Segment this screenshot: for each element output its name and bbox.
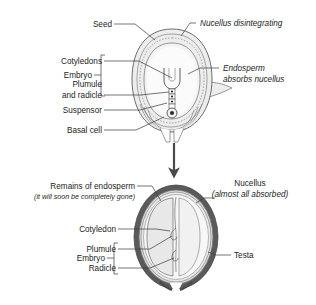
label-suspensor: Suspensor bbox=[63, 106, 102, 115]
label-nucellus-note: (almost all absorbed) bbox=[212, 190, 289, 199]
suspensor-dot-3 bbox=[171, 100, 173, 102]
developing-seed-graphic bbox=[94, 23, 232, 142]
label-remains-of-endosperm: Remains of endosperm bbox=[50, 182, 135, 191]
label-endosperm-line1: Endosperm bbox=[223, 64, 265, 73]
suspensor-dot-1 bbox=[171, 90, 173, 92]
micropyle-notch-right bbox=[174, 128, 184, 142]
label-endosperm-line2: absorbs nucellus bbox=[223, 75, 284, 84]
label-remains-note: (it will soon be completely gone) bbox=[34, 193, 135, 201]
label-radicle: Radicle bbox=[89, 264, 117, 273]
label-plumule: Plumule bbox=[86, 245, 116, 254]
micropyle-notch-left bbox=[160, 128, 170, 142]
label-seed: Seed bbox=[93, 20, 113, 29]
seed-development-figure: Seed Cotyledons Plumule and radicle Susp… bbox=[0, 0, 316, 305]
label-embryo-top: Embryo bbox=[64, 71, 93, 80]
label-plumule-line1: Plumule bbox=[72, 80, 102, 89]
label-nucellus: Nucellus bbox=[234, 179, 265, 188]
cotyledon-cleft bbox=[169, 68, 175, 81]
label-plumule-line2: and radicle bbox=[62, 91, 103, 100]
label-basal-cell: Basal cell bbox=[67, 126, 102, 135]
label-cotyledons: Cotyledons bbox=[61, 57, 102, 66]
basal-cell-nucleus bbox=[170, 111, 174, 115]
label-embryo-bottom: Embryo bbox=[77, 254, 106, 263]
label-testa: Testa bbox=[234, 251, 254, 260]
suspensor-dot-2 bbox=[171, 95, 173, 97]
label-nucellus-disintegrating: Nucellus disintegrating bbox=[200, 19, 283, 28]
label-cotyledon: Cotyledon bbox=[79, 225, 116, 234]
